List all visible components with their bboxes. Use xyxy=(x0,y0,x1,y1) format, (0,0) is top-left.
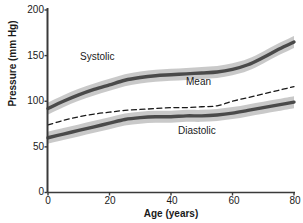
series-label-diastolic: Diastolic xyxy=(178,126,216,136)
axis-lines xyxy=(45,8,296,196)
plot-area xyxy=(0,0,303,223)
x-axis-title: Age (years) xyxy=(47,208,295,219)
blood-pressure-chart: Pressure (mm Hg) 200 150 100 50 0 0 20 4… xyxy=(0,0,303,223)
series-label-mean: Mean xyxy=(186,77,211,87)
series-label-systolic: Systolic xyxy=(80,52,114,62)
